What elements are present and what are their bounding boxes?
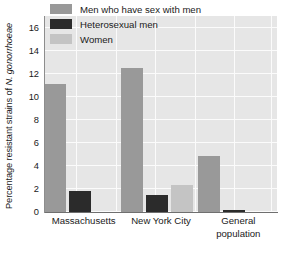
gridline-horizontal bbox=[45, 142, 277, 143]
y-axis-tick-label: 12 bbox=[29, 69, 39, 79]
gridline-vertical bbox=[234, 16, 235, 212]
y-axis-tick-label: 0 bbox=[34, 207, 39, 217]
chart-legend: Men who have sex with menHeterosexual me… bbox=[50, 2, 230, 47]
legend-item: Men who have sex with men bbox=[50, 2, 230, 16]
x-axis-line bbox=[45, 212, 278, 213]
gridline-horizontal bbox=[45, 50, 277, 51]
y-axis-tick-label: 6 bbox=[34, 138, 39, 148]
legend-color-swatch bbox=[50, 4, 72, 14]
bar bbox=[121, 68, 143, 212]
y-axis-tick-labels: 0246810121416 bbox=[18, 16, 42, 212]
y-axis-tick-label: 14 bbox=[29, 46, 39, 56]
y-axis-tick-label: 2 bbox=[34, 184, 39, 194]
legend-item: Women bbox=[50, 32, 230, 46]
x-axis-category-label-line: New York City bbox=[122, 215, 199, 228]
gonorrhoea-resistance-bar-chart: Percentage resistant strains of N. gonor… bbox=[0, 0, 282, 264]
x-axis-category-label-line: General bbox=[200, 215, 277, 228]
bar bbox=[198, 156, 220, 212]
y-axis-title-italic: N. gonorrhoeae bbox=[4, 23, 14, 86]
y-axis-title-plain: Percentage resistant strains of bbox=[4, 86, 14, 209]
gridline-horizontal bbox=[45, 188, 277, 189]
legend-item-label: Men who have sex with men bbox=[80, 4, 201, 15]
bar bbox=[146, 195, 168, 212]
legend-color-swatch bbox=[50, 19, 72, 29]
y-axis-title: Percentage resistant strains of N. gonor… bbox=[4, 23, 14, 209]
gridline-horizontal bbox=[45, 119, 277, 120]
gridline-vertical bbox=[271, 16, 272, 212]
x-axis-category-label: Massachusetts bbox=[45, 215, 122, 228]
x-axis-category-labels: MassachusettsNew York CityGeneralpopulat… bbox=[45, 215, 277, 261]
y-axis-tick-label: 8 bbox=[34, 115, 39, 125]
x-axis-category-label-line: Massachusetts bbox=[45, 215, 122, 228]
x-axis-category-label: Generalpopulation bbox=[200, 215, 277, 240]
legend-item: Heterosexual men bbox=[50, 17, 230, 31]
legend-item-label: Women bbox=[80, 34, 113, 45]
y-axis-title-container: Percentage resistant strains of N. gonor… bbox=[0, 0, 18, 232]
gridline-horizontal bbox=[45, 96, 277, 97]
x-axis-category-label-line: population bbox=[200, 228, 277, 241]
legend-color-swatch bbox=[50, 34, 72, 44]
bar bbox=[45, 84, 66, 212]
gridline-horizontal bbox=[45, 165, 277, 166]
y-axis-tick-label: 10 bbox=[29, 92, 39, 102]
x-axis-category-label: New York City bbox=[122, 215, 199, 228]
y-axis-tick-label: 16 bbox=[29, 23, 39, 33]
bar bbox=[69, 191, 91, 212]
bar bbox=[171, 185, 193, 212]
legend-item-label: Heterosexual men bbox=[80, 19, 158, 30]
y-axis-tick-label: 4 bbox=[34, 161, 39, 171]
gridline-horizontal bbox=[45, 73, 277, 74]
